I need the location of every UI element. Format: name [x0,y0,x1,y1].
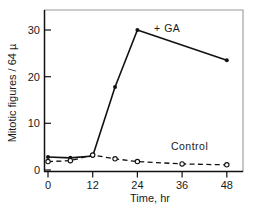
x-axis-tick-labels: 0 12 24 36 48 [45,179,233,191]
data-point [225,58,229,62]
series-label-ga: + GA [154,22,180,34]
data-point [135,159,139,163]
series-control [46,153,229,167]
data-point [113,85,117,89]
mitotic-figures-line-chart: 0 10 20 30 0 12 24 36 48 Time, hr Mitoti… [0,0,256,206]
plot-frame [44,10,243,172]
series-line [48,30,227,158]
data-point [225,163,229,167]
data-point [68,158,72,162]
y-tick-label-20: 20 [28,71,40,83]
data-point [135,28,139,32]
data-point [46,155,50,159]
x-tick-label-24: 24 [131,179,143,191]
axis-lines [44,10,243,172]
x-axis-title: Time, hr [130,192,170,204]
data-point [113,157,117,161]
y-tick-label-0: 0 [34,164,40,176]
data-point [91,153,95,157]
x-tick-label-12: 12 [87,179,99,191]
chart-figure: 0 10 20 30 0 12 24 36 48 Time, hr Mitoti… [0,0,256,206]
data-point [46,159,50,163]
x-tick-label-36: 36 [176,179,188,191]
x-axis-ticks [48,172,227,178]
x-tick-label-48: 48 [221,179,233,191]
y-axis-tick-labels: 0 10 20 30 [28,24,40,176]
y-tick-label-30: 30 [28,24,40,36]
y-axis-title: Mitotic figures / 64 µ [6,43,18,142]
y-axis-ticks [45,30,52,170]
x-tick-label-0: 0 [45,179,51,191]
data-point [180,162,184,166]
series-label-control: Control [171,140,208,152]
y-tick-label-10: 10 [28,117,40,129]
